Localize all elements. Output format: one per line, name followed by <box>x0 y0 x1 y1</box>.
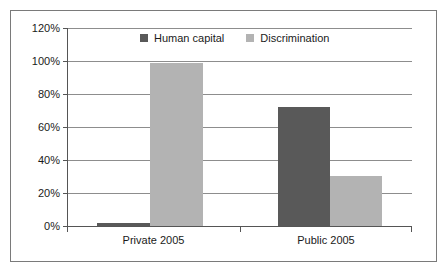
y-axis-label-40: 40% <box>20 155 60 166</box>
gridline-60 <box>67 127 412 128</box>
legend-label-discrimination: Discrimination <box>260 33 329 44</box>
legend-entry-discrimination: Discrimination <box>246 33 329 44</box>
gridline-40 <box>67 160 412 161</box>
x-axis-label-private-2005: Private 2005 <box>67 234 240 247</box>
x-tick-right <box>411 227 412 232</box>
x-tick-left <box>67 227 68 232</box>
y-tick-20 <box>63 193 67 194</box>
y-axis-label-80: 80% <box>20 89 60 100</box>
y-axis-label-20: 20% <box>20 188 60 199</box>
chart-legend: Human capital Discrimination <box>140 31 329 45</box>
y-tick-40 <box>63 160 67 161</box>
x-tick-group-divider <box>240 227 241 232</box>
bar-chart-figure: 120% 100% 80% 60% 40% 20% 0% Private 200… <box>0 0 446 270</box>
y-axis-label-60: 60% <box>20 122 60 133</box>
legend-entry-human-capital: Human capital <box>140 33 224 44</box>
legend-label-human-capital: Human capital <box>154 33 224 44</box>
gridline-100 <box>67 61 412 62</box>
plot-area <box>67 28 412 226</box>
y-tick-120 <box>63 28 67 29</box>
legend-swatch-discrimination-icon <box>246 34 254 42</box>
bar-public-2005-discrimination <box>330 176 382 226</box>
y-axis-line <box>67 28 68 227</box>
y-axis-tick-labels: 120% 100% 80% 60% 40% 20% 0% <box>18 0 60 270</box>
gridline-80 <box>67 94 412 95</box>
bar-private-2005-discrimination <box>150 63 203 226</box>
y-axis-label-120: 120% <box>20 23 60 34</box>
y-axis-label-0: 0% <box>20 221 60 232</box>
legend-swatch-human-capital-icon <box>140 34 148 42</box>
bar-public-2005-human-capital <box>278 107 330 226</box>
y-axis-label-100: 100% <box>20 56 60 67</box>
x-axis-label-public-2005: Public 2005 <box>240 234 412 247</box>
y-tick-100 <box>63 61 67 62</box>
y-tick-80 <box>63 94 67 95</box>
gridline-120 <box>67 28 412 29</box>
y-tick-60 <box>63 127 67 128</box>
